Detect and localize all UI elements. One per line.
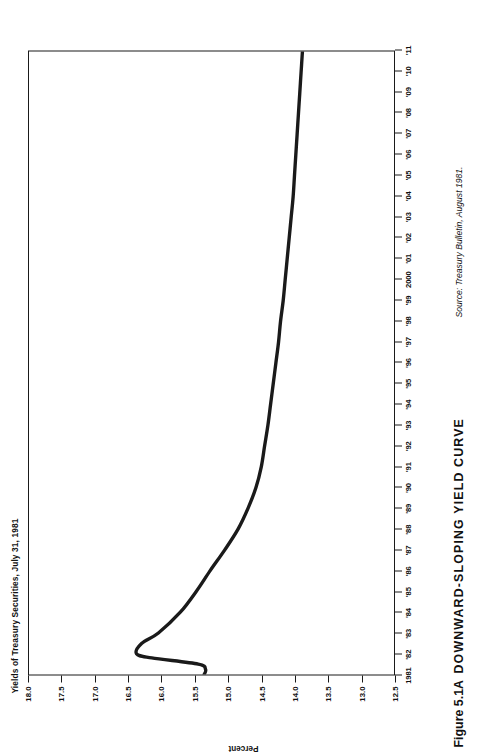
x-tick-label: '91 <box>404 462 413 472</box>
x-tick <box>395 382 402 383</box>
x-tick <box>395 674 402 675</box>
x-tick-label: '82 <box>404 649 413 659</box>
x-tick <box>395 487 402 488</box>
x-tick <box>395 612 402 613</box>
figure-caption: Figure 5.1A DOWNWARD-SLOPING YIELD CURVE… <box>452 0 482 747</box>
x-tick-label: '01 <box>404 253 413 263</box>
x-tick-label: '95 <box>404 378 413 388</box>
x-tick <box>395 570 402 571</box>
x-tick-label: 2000 <box>404 271 413 288</box>
caption-source: Source: Treasury Bulletin, August 1981. <box>454 166 464 317</box>
y-tick <box>28 675 29 682</box>
x-tick-label: '09 <box>404 87 413 97</box>
x-tick-label: '93 <box>404 420 413 430</box>
x-tick <box>395 320 402 321</box>
x-tick <box>395 49 402 50</box>
y-tick <box>128 675 129 682</box>
y-tick-label: 15.0 <box>224 686 233 701</box>
caption-figure-number: Figure 5.1A <box>452 680 466 747</box>
y-tick <box>228 675 229 682</box>
x-tick-label: '11 <box>404 45 413 55</box>
x-tick-label: '84 <box>404 608 413 618</box>
x-tick <box>395 653 402 654</box>
x-tick-label: 1981 <box>404 667 413 684</box>
x-tick <box>395 195 402 196</box>
x-tick <box>395 591 402 592</box>
x-tick-label: '97 <box>404 337 413 347</box>
x-tick <box>395 91 402 92</box>
x-tick <box>395 153 402 154</box>
x-tick-label: '83 <box>404 628 413 638</box>
yield-curve-line <box>29 51 394 674</box>
y-tick-label: 14.0 <box>290 686 299 701</box>
x-tick <box>395 341 402 342</box>
x-tick-label: '02 <box>404 233 413 243</box>
x-tick-label: '85 <box>404 587 413 597</box>
x-tick <box>395 507 402 508</box>
x-tick-label: '94 <box>404 399 413 409</box>
y-tick <box>262 675 263 682</box>
x-tick-label: '87 <box>404 545 413 555</box>
y-tick <box>295 675 296 682</box>
x-tick-label: '90 <box>404 483 413 493</box>
chart-title: Yields of Treasury Securities, July 31, … <box>10 518 20 693</box>
x-tick-label: '07 <box>404 128 413 138</box>
y-tick <box>328 675 329 682</box>
x-tick <box>395 257 402 258</box>
x-tick <box>395 70 402 71</box>
x-tick <box>395 132 402 133</box>
x-tick-label: '98 <box>404 316 413 326</box>
x-tick <box>395 403 402 404</box>
y-tick-label: 17.0 <box>90 686 99 701</box>
y-tick-label: 16.0 <box>157 686 166 701</box>
y-tick-label: 12.5 <box>391 686 400 701</box>
x-tick <box>395 466 402 467</box>
x-tick-label: '04 <box>404 191 413 201</box>
x-tick <box>395 112 402 113</box>
x-tick-label: '96 <box>404 358 413 368</box>
y-axis: Percent 18.017.517.016.516.015.515.014.5… <box>28 675 395 747</box>
y-tick-label: 16.5 <box>124 686 133 701</box>
x-tick <box>395 299 402 300</box>
x-tick <box>395 216 402 217</box>
x-tick <box>395 424 402 425</box>
y-tick <box>161 675 162 682</box>
y-tick-label: 13.0 <box>357 686 366 701</box>
y-tick <box>362 675 363 682</box>
y-tick-label: 13.5 <box>324 686 333 701</box>
y-tick-label: 14.5 <box>257 686 266 701</box>
x-tick-label: '03 <box>404 212 413 222</box>
y-tick <box>61 675 62 682</box>
y-axis-label: Percent <box>228 743 258 752</box>
x-tick <box>395 528 402 529</box>
x-tick-label: '08 <box>404 108 413 118</box>
x-tick-label: '10 <box>404 66 413 76</box>
y-tick <box>195 675 196 682</box>
x-tick <box>395 362 402 363</box>
y-tick-label: 18.0 <box>24 686 33 701</box>
y-tick <box>95 675 96 682</box>
x-tick <box>395 237 402 238</box>
x-tick <box>395 549 402 550</box>
x-tick-label: '88 <box>404 524 413 534</box>
x-tick-label: '86 <box>404 566 413 576</box>
y-tick-label: 17.5 <box>57 686 66 701</box>
x-tick <box>395 278 402 279</box>
x-tick-label: '05 <box>404 170 413 180</box>
x-tick <box>395 632 402 633</box>
y-tick-label: 15.5 <box>190 686 199 701</box>
x-axis: 1981'82'83'84'85'86'87'88'89'90'91'92'93… <box>395 50 435 675</box>
x-tick <box>395 174 402 175</box>
x-tick-label: '92 <box>404 441 413 451</box>
x-tick-label: '89 <box>404 503 413 513</box>
x-tick <box>395 445 402 446</box>
plot-area <box>28 50 395 675</box>
x-tick-label: '99 <box>404 295 413 305</box>
caption-title: DOWNWARD-SLOPING YIELD CURVE <box>452 418 466 673</box>
x-tick-label: '06 <box>404 149 413 159</box>
y-tick <box>395 675 396 682</box>
